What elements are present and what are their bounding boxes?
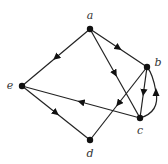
label-b: b	[154, 56, 161, 69]
edge-a-e	[22, 29, 90, 86]
label-e: e	[7, 79, 14, 92]
labels: a b c d e	[7, 9, 162, 160]
arrow-c-b-curved	[153, 88, 160, 96]
label-a: a	[87, 9, 94, 22]
node-b	[144, 64, 150, 70]
edge-a-c	[90, 29, 140, 118]
node-c	[137, 115, 143, 121]
edge-a-b	[90, 29, 147, 67]
label-c: c	[137, 124, 143, 137]
nodes	[19, 26, 150, 143]
node-d	[87, 137, 93, 143]
node-a	[87, 26, 93, 32]
directed-graph: a b c d e	[0, 0, 168, 164]
edge-c-e	[22, 86, 140, 118]
label-d: d	[86, 147, 93, 160]
node-e	[19, 83, 25, 89]
edge-e-d	[22, 86, 90, 140]
